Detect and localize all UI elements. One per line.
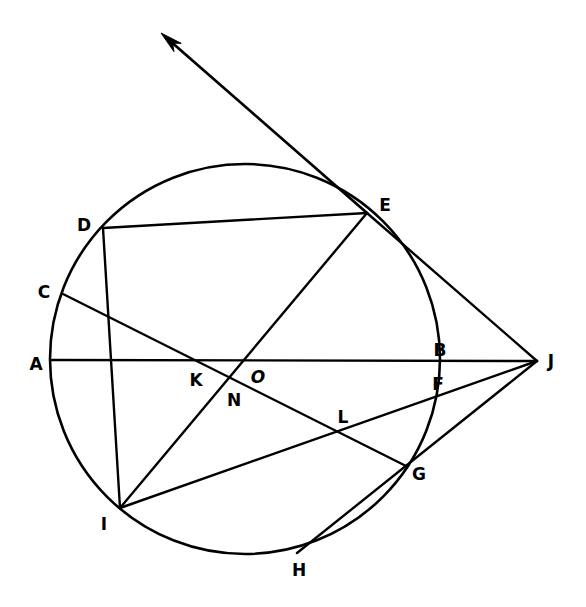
point-label-a: A xyxy=(29,356,42,373)
segment-H-to-J-through-G xyxy=(297,361,537,553)
point-label-n: N xyxy=(227,392,241,409)
geometry-figure: ABCDEFGHIJKLNO xyxy=(0,0,586,607)
point-label-c: C xyxy=(38,284,50,301)
point-label-d: D xyxy=(77,217,91,234)
point-label-g: G xyxy=(412,466,426,483)
segment-D-to-I-through-N xyxy=(103,228,120,508)
segment-E-to-J xyxy=(367,213,537,361)
point-label-h: H xyxy=(292,562,306,579)
point-label-o: O xyxy=(251,369,265,386)
point-label-f: F xyxy=(432,376,444,393)
point-label-j: J xyxy=(548,353,554,370)
point-label-b: B xyxy=(434,342,447,359)
point-label-e: E xyxy=(379,197,391,214)
segment-A-to-J-through-O-B xyxy=(52,360,537,361)
tangent-ray-from-E xyxy=(170,41,367,213)
point-label-k: K xyxy=(189,372,202,389)
segment-D-to-E xyxy=(103,213,367,228)
geometry-canvas xyxy=(0,0,586,607)
segment-C-to-G-through-K-L xyxy=(63,294,406,466)
point-label-i: I xyxy=(101,516,107,533)
point-label-l: L xyxy=(338,409,349,426)
